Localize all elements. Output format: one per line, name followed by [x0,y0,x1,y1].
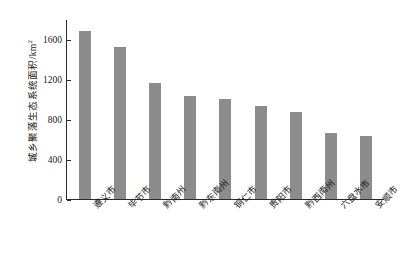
bar [290,112,302,199]
bar [79,31,91,199]
bar [114,47,126,199]
x-axis-tick-label: 黔西南州 [302,202,311,211]
x-axis-tick-label: 安顺市 [372,202,381,211]
bar-slot [173,20,208,199]
y-axis-tick-label: 400 [28,155,62,165]
y-axis-tick-label: 0 [28,195,62,205]
y-axis-tick-mark [67,120,71,121]
y-axis-tick-labels: 040080012001600 [28,0,62,261]
bar-slot [102,20,137,199]
x-axis-tick-label: 遵义市 [90,202,99,211]
x-axis-tick-label: 黔东南州 [196,202,205,211]
y-axis-tick-label: 800 [28,115,62,125]
bar-series [67,20,384,199]
bar [255,106,267,199]
bar-slot [137,20,172,199]
plot-area [66,20,384,200]
x-axis-tick-label: 黔南州 [160,202,169,211]
bar-chart-figure: 城乡聚落生态系统面积/km2 040080012001600 遵义市毕节市黔南州… [0,0,404,261]
y-axis-tick-label: 1600 [28,35,62,45]
bar-slot [67,20,102,199]
x-axis-tick-label: 贵阳市 [266,202,275,211]
y-axis-tick-mark [67,80,71,81]
y-axis-tick-label: 1200 [28,75,62,85]
x-axis-tick-label: 铜仁市 [231,202,240,211]
bar-slot [243,20,278,199]
bar-slot [349,20,384,199]
x-axis-tick-label: 六盘水市 [337,202,346,211]
y-axis-tick-mark [67,200,71,201]
y-axis-tick-mark [67,40,71,41]
x-axis-tick-labels: 遵义市毕节市黔南州黔东南州铜仁市贵阳市黔西南州六盘水市安顺市 [66,202,384,260]
y-axis-tick-mark [67,160,71,161]
bar-slot [208,20,243,199]
x-axis-tick-label: 毕节市 [125,202,134,211]
bar-slot [278,20,313,199]
bar [184,96,196,199]
bar-slot [314,20,349,199]
bar [149,83,161,199]
